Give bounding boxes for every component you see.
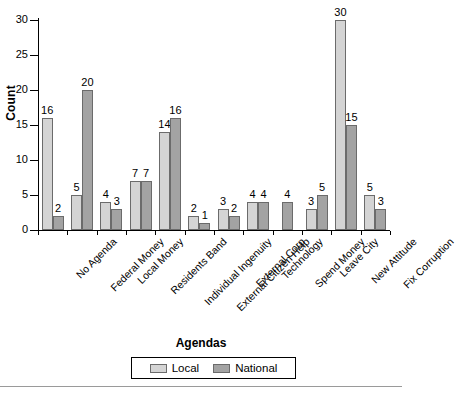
bar-group: 3015 [331, 20, 360, 230]
bar-group: 32 [214, 20, 243, 230]
x-axis-tick [155, 231, 156, 235]
x-axis-tick [243, 231, 244, 235]
bar-value-label: 2 [191, 203, 197, 214]
x-axis-tick [214, 231, 215, 235]
bar-value-label: 7 [143, 168, 149, 179]
chart-legend: Local National [131, 357, 296, 379]
bar-national: 7 [141, 181, 152, 230]
bar-value-label: 4 [249, 189, 255, 200]
y-axis-tick [30, 160, 38, 161]
bar-group: 35 [302, 20, 331, 230]
bar-value-label: 2 [55, 203, 61, 214]
bar-group: 4 [273, 20, 302, 230]
bar-value-label: 14 [158, 119, 170, 130]
bar-local: 5 [364, 195, 375, 230]
legend-item-national: National [213, 362, 277, 374]
x-axis-tick [126, 231, 127, 235]
bar-national: 15 [346, 125, 357, 230]
bar-national: 3 [111, 209, 122, 230]
y-axis-tick [30, 20, 38, 21]
bar-local: 16 [42, 118, 53, 230]
x-axis-tick [185, 231, 186, 235]
bar-national: 4 [258, 202, 269, 230]
x-axis-title: Agendas [0, 336, 402, 350]
bar-local: 14 [159, 132, 170, 230]
bar-value-label: 4 [103, 189, 109, 200]
y-axis-tick-label: 25 [2, 49, 28, 60]
bar-value-label: 5 [319, 182, 325, 193]
bar-group: 53 [361, 20, 390, 230]
bar-national: 3 [375, 209, 386, 230]
bar-value-label: 20 [81, 77, 93, 88]
legend-item-local: Local [150, 362, 200, 374]
bar-value-label: 3 [378, 196, 384, 207]
bar-local: 30 [335, 20, 346, 230]
bar-national: 20 [82, 90, 93, 230]
bar-local: 4 [100, 202, 111, 230]
y-axis-tick-label: 0 [2, 224, 28, 235]
bar-value-label: 15 [345, 112, 357, 123]
y-axis-tick-label: 5 [2, 189, 28, 200]
bar-group: 162 [38, 20, 67, 230]
bar-group: 43 [97, 20, 126, 230]
bar-group: 21 [185, 20, 214, 230]
bar-national: 2 [53, 216, 64, 230]
bar-value-label: 7 [132, 168, 138, 179]
bar-value-label: 4 [260, 189, 266, 200]
y-axis-tick [30, 125, 38, 126]
x-axis-label-no-agenda: No Agenda [74, 236, 119, 281]
bar-value-label: 3 [308, 196, 314, 207]
y-axis-tick-label: 20 [2, 84, 28, 95]
bar-value-label: 2 [231, 203, 237, 214]
x-axis-tick [273, 231, 274, 235]
bar-value-label: 30 [334, 7, 346, 18]
x-axis-tick [67, 231, 68, 235]
bar-value-label: 5 [73, 182, 79, 193]
bar-national: 2 [229, 216, 240, 230]
y-axis-tick [30, 90, 38, 91]
x-axis-tick [361, 231, 362, 235]
bar-group: 520 [67, 20, 96, 230]
page-divider [0, 386, 402, 387]
local-swatch-icon [150, 364, 167, 373]
x-axis-tick [38, 231, 39, 235]
bar-local: 3 [306, 209, 317, 230]
x-axis-tick [97, 231, 98, 235]
bar-value-label: 16 [169, 105, 181, 116]
plot-area: 16252043771416213244435301553 [38, 20, 390, 230]
bar-national: 16 [170, 118, 181, 230]
y-axis-tick-label: 30 [2, 14, 28, 25]
bar-national: 4 [282, 202, 293, 230]
bar-local: 5 [71, 195, 82, 230]
bar-value-label: 1 [202, 210, 208, 221]
x-axis-tick [331, 231, 332, 235]
bar-value-label: 4 [284, 189, 290, 200]
bar-local: 3 [218, 209, 229, 230]
bar-group: 77 [126, 20, 155, 230]
bar-local: 2 [188, 216, 199, 230]
bar-value-label: 16 [41, 105, 53, 116]
bar-local: 7 [130, 181, 141, 230]
bar-group: 1416 [155, 20, 184, 230]
y-axis-tick [30, 230, 38, 231]
bar-national: 5 [317, 195, 328, 230]
bar-national: 1 [199, 223, 210, 230]
bar-value-label: 5 [367, 182, 373, 193]
bar-value-label: 3 [114, 196, 120, 207]
bar-group: 44 [243, 20, 272, 230]
y-axis-tick-label: 10 [2, 154, 28, 165]
y-axis-tick-label: 15 [2, 119, 28, 130]
x-axis-tick [390, 231, 391, 235]
legend-label-national: National [235, 362, 277, 374]
bar-local: 4 [247, 202, 258, 230]
y-axis-tick [30, 195, 38, 196]
legend-label-local: Local [172, 362, 200, 374]
bar-value-label: 3 [220, 196, 226, 207]
y-axis-tick [30, 55, 38, 56]
national-swatch-icon [213, 364, 230, 373]
